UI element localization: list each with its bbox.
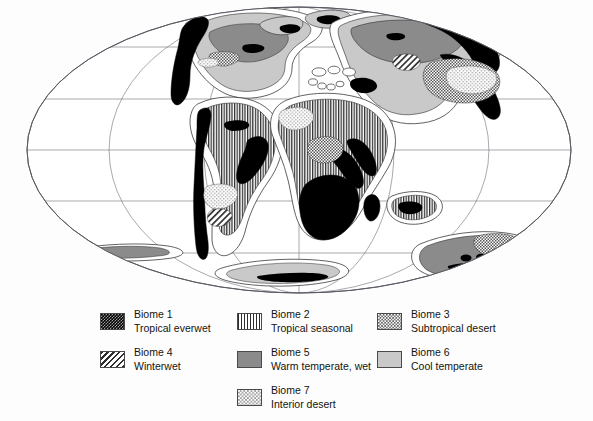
legend-label-biome-1: Biome 1 Tropical everwet: [134, 308, 211, 335]
legend-item-biome-7[interactable]: Biome 7 Interior desert: [237, 380, 397, 418]
legend-label-biome-3-line1: Biome 3: [411, 308, 450, 320]
legend-label-biome-6-line2: Cool temperate: [411, 360, 483, 374]
legend-column-3: Biome 3 Subtropical desert Biome 6 Cool …: [377, 304, 537, 380]
legend-column-2: Biome 2 Tropical seasonal Biome 5 Warm t…: [237, 304, 397, 418]
legend-label-biome-4-line1: Biome 4: [134, 346, 173, 358]
legend-label-biome-2: Biome 2 Tropical seasonal: [271, 308, 353, 335]
legend-label-biome-2-line1: Biome 2: [271, 308, 310, 320]
biome-5-swatch: [237, 351, 262, 368]
legend-item-biome-1[interactable]: Biome 1 Tropical everwet: [100, 304, 260, 342]
biome-4-swatch: [100, 351, 125, 368]
legend-label-biome-7: Biome 7 Interior desert: [271, 384, 336, 411]
legend-label-biome-3: Biome 3 Subtropical desert: [411, 308, 496, 335]
legend-label-biome-7-line2: Interior desert: [271, 398, 336, 412]
legend-label-biome-2-line2: Tropical seasonal: [271, 322, 353, 336]
legend-label-biome-1-line1: Biome 1: [134, 308, 173, 320]
biome-6-swatch: [377, 351, 402, 368]
map-page: Biome 1 Tropical everwet Biome 4 Winterw…: [0, 0, 593, 421]
legend: Biome 1 Tropical everwet Biome 4 Winterw…: [0, 304, 593, 421]
legend-label-biome-7-line1: Biome 7: [271, 384, 310, 396]
legend-item-biome-3[interactable]: Biome 3 Subtropical desert: [377, 304, 537, 342]
legend-item-biome-4[interactable]: Biome 4 Winterwet: [100, 342, 260, 380]
biome-2-swatch: [237, 313, 262, 330]
legend-label-biome-3-line2: Subtropical desert: [411, 322, 496, 336]
biome-3-swatch: [377, 313, 402, 330]
legend-label-biome-4: Biome 4 Winterwet: [134, 346, 181, 373]
legend-label-biome-6: Biome 6 Cool temperate: [411, 346, 483, 373]
biome-7-swatch: [237, 389, 262, 406]
biome-1-swatch: [100, 313, 125, 330]
legend-label-biome-6-line1: Biome 6: [411, 346, 450, 358]
legend-label-biome-5: Biome 5 Warm temperate, wet: [271, 346, 371, 373]
legend-label-biome-5-line1: Biome 5: [271, 346, 310, 358]
legend-item-biome-5[interactable]: Biome 5 Warm temperate, wet: [237, 342, 397, 380]
legend-label-biome-1-line2: Tropical everwet: [134, 322, 211, 336]
paleogeographic-map: [0, 0, 593, 300]
legend-label-biome-4-line2: Winterwet: [134, 360, 181, 374]
legend-column-1: Biome 1 Tropical everwet Biome 4 Winterw…: [100, 304, 260, 380]
legend-label-biome-5-line2: Warm temperate, wet: [271, 360, 371, 374]
legend-item-biome-2[interactable]: Biome 2 Tropical seasonal: [237, 304, 397, 342]
legend-item-biome-6[interactable]: Biome 6 Cool temperate: [377, 342, 537, 380]
